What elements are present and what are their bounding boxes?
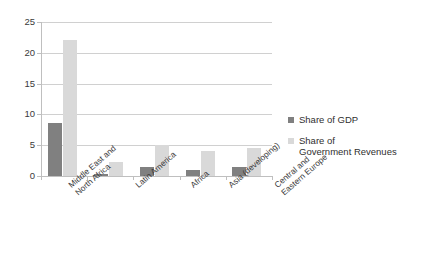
y-axis-line: [41, 22, 42, 177]
x-axis-tick-mark: [272, 176, 273, 180]
x-axis-tick-mark: [180, 176, 181, 180]
legend-item[interactable]: Share of Government Revenues: [288, 135, 426, 158]
chart-figure: 0510152025 Middle East and North AfricaL…: [0, 0, 430, 259]
plot-area: [41, 22, 272, 176]
legend-swatch-icon: [288, 117, 294, 123]
y-axis-tick-label: 0: [13, 171, 35, 181]
legend-swatch-icon: [288, 138, 294, 144]
y-axis-tick-mark: [37, 145, 41, 146]
y-axis-tick-mark: [37, 114, 41, 115]
legend-label: Share of GDP: [299, 114, 358, 126]
legend-label: Share of Government Revenues: [299, 135, 397, 158]
x-axis-tick-mark: [41, 176, 42, 180]
legend-item[interactable]: Share of GDP: [288, 114, 426, 126]
y-axis-tick-mark: [37, 84, 41, 85]
x-axis-tick-mark: [133, 176, 134, 180]
chart-legend: Share of GDPShare of Government Revenues: [288, 114, 426, 167]
bar: [48, 123, 62, 176]
y-axis-tick-label: 20: [13, 48, 35, 58]
y-axis-tick-label: 25: [13, 17, 35, 27]
y-axis-tick-label: 15: [13, 79, 35, 89]
y-axis-tick-labels: 0510152025: [10, 0, 35, 259]
x-axis-tick-mark: [226, 176, 227, 180]
bar: [63, 40, 77, 176]
y-axis-tick-mark: [37, 22, 41, 23]
y-axis-tick-label: 5: [13, 140, 35, 150]
y-axis-tick-mark: [37, 53, 41, 54]
gridline: [41, 22, 272, 23]
y-axis-tick-label: 10: [13, 109, 35, 119]
